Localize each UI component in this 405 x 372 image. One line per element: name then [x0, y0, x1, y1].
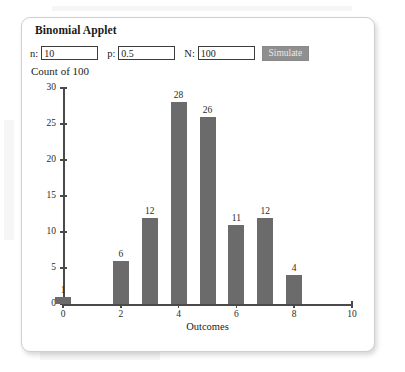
- y-axis-tick-label: 15: [36, 190, 56, 200]
- y-axis-tick: [60, 231, 67, 233]
- bar: [113, 261, 129, 304]
- bar-value-label: 12: [253, 206, 277, 216]
- bar: [200, 117, 216, 304]
- y-axis-tick-label: 5: [36, 262, 56, 272]
- bar-value-label: 11: [224, 213, 248, 223]
- y-axis-tick: [60, 159, 67, 161]
- y-axis-tick-label: 20: [36, 154, 56, 164]
- y-axis-tick: [60, 267, 67, 269]
- bar-value-label: 26: [196, 105, 220, 115]
- x-axis-tick-label: 2: [111, 309, 131, 319]
- x-axis-line: [63, 304, 352, 306]
- bar: [55, 297, 71, 304]
- bar-value-label: 6: [109, 249, 133, 259]
- y-axis-tick-label: 10: [36, 226, 56, 236]
- bar: [228, 225, 244, 304]
- x-axis-title: Outcomes: [63, 321, 352, 332]
- y-axis-tick: [60, 87, 67, 89]
- bar-value-label: 12: [138, 206, 162, 216]
- y-axis-tick-label: 30: [36, 82, 56, 92]
- bar-value-label: 28: [167, 90, 191, 100]
- scan-artifact-left: [4, 120, 14, 240]
- x-axis-tick-label: 6: [226, 309, 246, 319]
- bar: [286, 275, 302, 304]
- bar: [171, 102, 187, 304]
- y-axis-tick-label: 25: [36, 118, 56, 128]
- bar-value-label: 4: [282, 263, 306, 273]
- x-axis-tick-label: 4: [169, 309, 189, 319]
- scan-artifact-top: [52, 6, 352, 11]
- scan-artifact-bottom: [40, 352, 160, 360]
- x-axis-tick: [351, 301, 353, 308]
- bar-value-label: 1: [51, 285, 75, 295]
- applet-panel: Binomial Applet n: p: N: Simulate Count …: [21, 17, 375, 352]
- y-axis-tick: [60, 123, 67, 125]
- bar: [142, 218, 158, 304]
- x-axis-tick-label: 8: [284, 309, 304, 319]
- y-axis-tick-label: 0: [36, 298, 56, 308]
- x-axis-tick-label: 10: [342, 309, 362, 319]
- x-axis-tick-label: 0: [53, 309, 73, 319]
- bar: [257, 218, 273, 304]
- binomial-bar-chart: 051015202530 0246810 1612282611124 Outco…: [22, 18, 376, 353]
- screenshot-root: Binomial Applet n: p: N: Simulate Count …: [0, 0, 405, 372]
- y-axis-tick: [60, 195, 67, 197]
